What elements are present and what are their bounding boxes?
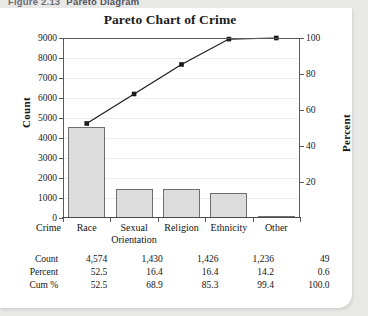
table-cell: 52.5 [62,267,118,280]
y-tick-left [59,198,63,199]
x-axis [62,217,301,218]
figure-number: Figure 2.13 [8,0,60,7]
y-axis-right [299,38,300,218]
figure-caption-title: Pareto Diagram [66,0,139,7]
x-axis-row-label: Crime [0,222,61,233]
y-tick-label-left: 1000 [38,193,57,203]
table-row: Percent52.516.416.414.20.6 [0,267,340,280]
y-tick-left [59,178,63,179]
table-row: Count4,5741,4301,4261,23649 [0,254,340,267]
y-tick-label-right: 60 [306,105,316,115]
y-tick-left [59,118,63,119]
cumulative-marker [84,121,89,126]
y-tick-label-right: 20 [306,177,316,187]
table-cell: 16.4 [173,267,229,280]
table-cell: 99.4 [229,280,285,293]
plot-top-border [63,38,300,39]
y-tick-left [59,158,63,159]
table-row-header: Count [0,254,62,267]
cumulative-marker [132,92,137,97]
table-cell: 68.9 [118,280,174,293]
x-axis-label: Race [63,222,110,234]
y-tick-left [59,58,63,59]
table-cell: 4,574 [62,254,118,267]
y-tick-right [300,146,304,147]
table-cell: 49 [284,254,340,267]
y-axis-left [63,38,64,218]
y-tick-right [300,74,304,75]
y-tick-label-left: 2000 [38,173,57,183]
table-row: Cum %52.568.985.399.4100.0 [0,280,340,293]
y-axis-title-right: Percent [340,114,352,152]
x-tick [300,218,301,222]
x-axis-label: Sexual Orientation [110,222,157,245]
table-cell: 14.2 [229,267,285,280]
x-axis-label: Religion [158,222,205,234]
table-row-header: Cum % [0,280,62,293]
cumulative-marker [179,62,184,67]
y-tick-label-left: 4000 [38,133,57,143]
y-tick-label-left: 7000 [38,73,57,83]
cumulative-polyline [87,38,277,124]
table-cell: 1,426 [173,254,229,267]
y-tick-left [59,38,63,39]
table-cell: 1,236 [229,254,285,267]
cumulative-line [63,38,300,218]
x-axis-label: Ethnicity [205,222,252,234]
y-tick-left [59,78,63,79]
y-tick-label-left: 6000 [38,93,57,103]
table-cell: 0.6 [284,267,340,280]
y-axis-title-left: Count [20,97,32,128]
y-tick-right [300,182,304,183]
table-cell: 1,430 [118,254,174,267]
table-cell: 85.3 [173,280,229,293]
chart-title: Pareto Chart of Crime [0,12,340,28]
data-table: Count4,5741,4301,4261,23649Percent52.516… [0,254,340,293]
x-axis-label: Other [253,222,300,234]
y-tick-label-left: 8000 [38,53,57,63]
table-row-header: Percent [0,267,62,280]
y-tick-label-right: 100 [306,33,320,43]
y-tick-left [59,138,63,139]
table-cell: 52.5 [62,280,118,293]
y-tick-right [300,110,304,111]
table-cell: 100.0 [284,280,340,293]
plot-area: 0100020003000400050006000700080009000 20… [63,38,300,218]
y-tick-label-left: 5000 [38,113,57,123]
y-tick-right [300,38,304,39]
y-tick-left [59,98,63,99]
y-tick-label-left: 9000 [38,33,57,43]
y-tick-label-left: 3000 [38,153,57,163]
y-tick-label-right: 80 [306,69,316,79]
y-tick-label-right: 40 [306,141,316,151]
table-cell: 16.4 [118,267,174,280]
figure-caption: Figure 2.13Pareto Diagram [8,0,139,7]
